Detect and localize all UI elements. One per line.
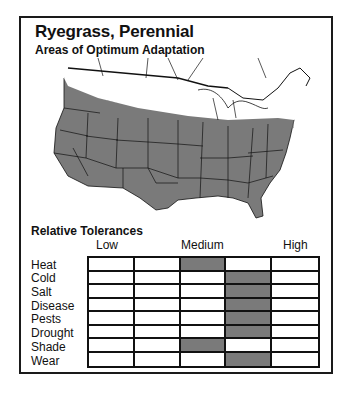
grid-cell-heat-4	[226, 258, 272, 272]
grid-cell-disease-1	[89, 299, 135, 313]
row-label-drought: Drought	[31, 327, 74, 339]
grid-cell-heat-1	[89, 258, 135, 272]
tolerance-grid	[87, 256, 320, 368]
grid-cell-drought-2	[135, 326, 181, 340]
grid-cell-wear-4	[226, 353, 272, 367]
grid-cell-shade-4	[226, 339, 272, 353]
scale-label-low: Low	[96, 238, 118, 252]
row-label-pests: Pests	[31, 313, 61, 325]
grid-cell-cold-3	[181, 272, 227, 286]
grid-cell-drought-3	[181, 326, 227, 340]
us-adaptation-map	[28, 58, 328, 228]
grid-cell-shade-2	[135, 339, 181, 353]
grid-cell-wear-2	[135, 353, 181, 367]
grid-cell-pests-1	[89, 312, 135, 326]
row-label-heat: Heat	[31, 259, 56, 271]
grid-cell-drought-5	[272, 326, 318, 340]
grid-cell-heat-2	[135, 258, 181, 272]
row-label-disease: Disease	[31, 300, 74, 312]
row-label-wear: Wear	[31, 355, 59, 367]
grid-cell-disease-5	[272, 299, 318, 313]
grid-cell-drought-4	[226, 326, 272, 340]
grid-cell-salt-3	[181, 285, 227, 299]
grid-cell-shade-5	[272, 339, 318, 353]
scale-label-high: High	[283, 238, 308, 252]
grid-cell-wear-3	[181, 353, 227, 367]
grid-cell-heat-3	[181, 258, 227, 272]
page-title: Ryegrass, Perennial	[35, 22, 194, 42]
tolerances-title: Relative Tolerances	[31, 224, 143, 238]
grid-cell-disease-2	[135, 299, 181, 313]
grid-cell-salt-5	[272, 285, 318, 299]
grid-cell-cold-1	[89, 272, 135, 286]
grid-cell-pests-3	[181, 312, 227, 326]
grid-cell-wear-1	[89, 353, 135, 367]
grid-cell-drought-1	[89, 326, 135, 340]
row-label-shade: Shade	[31, 341, 66, 353]
grid-cell-pests-2	[135, 312, 181, 326]
row-label-salt: Salt	[31, 286, 52, 298]
grid-cell-cold-2	[135, 272, 181, 286]
grid-cell-heat-5	[272, 258, 318, 272]
grid-cell-salt-4	[226, 285, 272, 299]
scale-label-medium: Medium	[181, 238, 224, 252]
grid-cell-pests-5	[272, 312, 318, 326]
grid-cell-cold-5	[272, 272, 318, 286]
row-label-cold: Cold	[31, 272, 56, 284]
grid-cell-cold-4	[226, 272, 272, 286]
map-subtitle: Areas of Optimum Adaptation	[35, 43, 205, 57]
grid-cell-disease-4	[226, 299, 272, 313]
grid-cell-shade-1	[89, 339, 135, 353]
grid-cell-pests-4	[226, 312, 272, 326]
grid-cell-salt-1	[89, 285, 135, 299]
grid-cell-disease-3	[181, 299, 227, 313]
grid-cell-shade-3	[181, 339, 227, 353]
grid-cell-wear-5	[272, 353, 318, 367]
grid-cell-salt-2	[135, 285, 181, 299]
